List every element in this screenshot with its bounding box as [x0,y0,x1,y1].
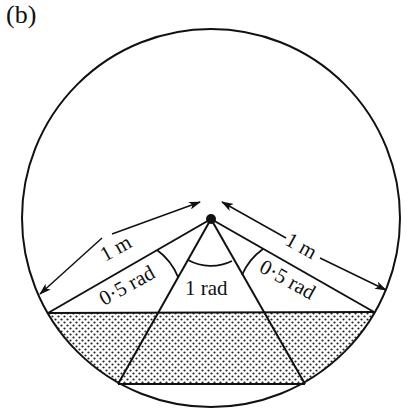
label-angle-center: 1 rad [185,276,228,300]
label-radius-right: 1 m [282,227,322,264]
angle-arc-left [157,250,178,277]
circle-diagram: 1 m 1 m 0·5 rad 1 rad 0·5 rad [0,0,406,410]
dimension-arrow-left-top [112,202,200,234]
dimension-arrow-right-top [222,202,286,238]
label-radius-left: 1 m [96,230,136,267]
upper-chord [48,312,374,313]
dimension-arrow-left-bottom [40,238,102,294]
center-point [206,214,216,224]
angle-arc-center [188,260,232,266]
dimension-arrow-right-bottom [320,258,386,290]
